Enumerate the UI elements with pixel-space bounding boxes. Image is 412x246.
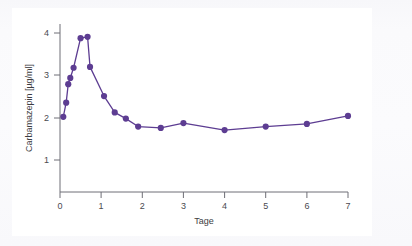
x-tick-label-0: 0 [57, 201, 62, 211]
data-point [63, 100, 69, 106]
data-point [84, 34, 90, 40]
data-point [345, 113, 351, 119]
data-point [180, 120, 186, 126]
plot-card: 4 3 2 1 0 1 2 3 4 [12, 8, 372, 236]
data-point [263, 123, 269, 129]
x-tick-label-2: 2 [140, 201, 145, 211]
x-tick-label-1: 1 [99, 201, 104, 211]
y-tick-label-1: 1 [44, 155, 49, 165]
data-point [221, 127, 227, 133]
data-point [101, 93, 107, 99]
data-point [67, 75, 73, 81]
data-point [304, 121, 310, 127]
x-tick-label-5: 5 [263, 201, 268, 211]
data-point [158, 125, 164, 131]
data-point [65, 81, 71, 87]
y-axis-title: Carbamazepin [µg/ml] [24, 64, 34, 152]
y-tick-label-4: 4 [44, 28, 49, 38]
x-tick-label-7: 7 [345, 201, 350, 211]
data-point [123, 116, 129, 122]
y-tick-label-3: 3 [44, 70, 49, 80]
data-point [135, 123, 141, 129]
x-tick-label-3: 3 [181, 201, 186, 211]
data-point [87, 64, 93, 70]
data-point [77, 35, 83, 41]
x-tick-label-4: 4 [222, 201, 227, 211]
x-axis-title: Tage [194, 216, 214, 226]
line-chart: 4 3 2 1 0 1 2 3 4 [12, 8, 372, 236]
data-point [70, 65, 76, 71]
x-tick-label-6: 6 [304, 201, 309, 211]
data-point [112, 109, 118, 115]
figure-container: 4 3 2 1 0 1 2 3 4 [0, 0, 412, 246]
data-point [60, 114, 66, 120]
y-tick-label-2: 2 [44, 113, 49, 123]
